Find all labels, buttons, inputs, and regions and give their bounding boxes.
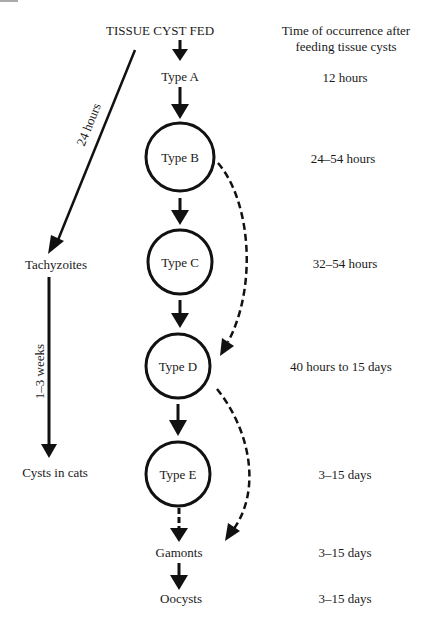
node-type-d: Type D [159,359,197,374]
time-type-a: 12 hours [322,70,367,85]
arrow-b-to-c [171,198,189,225]
arrow-fed-to-tachyzoites [48,50,135,254]
node-type-a: Type A [161,69,199,84]
time-header-line1: Time of occurrence after [282,23,410,39]
arrow-a-to-b [171,87,189,119]
node-gamonts: Gamonts [156,545,203,560]
dashed-arrow-d-to-gamonts [217,389,249,541]
time-header-line2: feeding tissue cysts [282,39,410,55]
node-type-b: Type B [161,150,199,165]
time-type-b: 24–54 hours [311,151,376,166]
arrow-d-to-e [169,404,187,436]
dashed-arrow-b-to-d [218,163,247,356]
time-type-d: 40 hours to 15 days [290,359,392,374]
time-oocysts: 3–15 days [318,591,371,606]
node-type-c: Type C [161,255,199,270]
node-type-e: Type E [160,467,197,482]
diagram-canvas [0,0,421,623]
arrow-fed-to-a [172,40,188,61]
time-type-c: 32–54 hours [313,256,378,271]
time-type-e: 3–15 days [318,467,371,482]
arrow-gamonts-to-oocysts [170,563,188,590]
arrow-e-to-gamonts-dashed [170,508,188,542]
edge-label-1-3-weeks: 1–3 weeks [32,344,47,399]
node-cysts-in-cats: Cysts in cats [22,465,88,480]
node-oocysts: Oocysts [160,591,202,606]
node-tachyzoites: Tachyzoites [25,257,87,272]
title-tissue-cyst-fed: TISSUE CYST FED [106,23,214,38]
time-header: Time of occurrence after feeding tissue … [282,23,410,55]
arrow-c-to-d [171,300,189,328]
time-gamonts: 3–15 days [318,545,371,560]
